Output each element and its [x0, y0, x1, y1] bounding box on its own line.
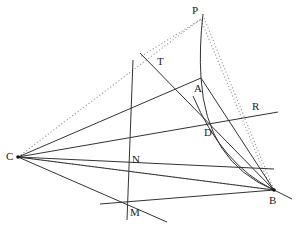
label-b: B: [269, 194, 276, 206]
line-m-b: [100, 190, 274, 204]
line-c-r: [18, 112, 278, 157]
dotted-construction-lines: [18, 18, 274, 190]
solid-lines: [18, 14, 292, 222]
point-c-dot: [16, 155, 20, 159]
label-m: M: [130, 206, 140, 218]
label-n: N: [132, 153, 140, 165]
arc-d-b: [193, 96, 274, 190]
dotted-line-p-t: [140, 20, 200, 57]
label-r: R: [252, 100, 260, 112]
dotted-line-p-b-outer: [204, 18, 274, 190]
label-a: A: [194, 82, 202, 94]
label-d: D: [204, 126, 212, 138]
geometry-diagram: P A T R D C N M B: [0, 0, 302, 226]
line-t-b: [140, 53, 274, 190]
line-b-tail: [274, 190, 292, 199]
point-b-dot: [272, 188, 276, 192]
label-t: T: [157, 55, 164, 67]
dotted-line-p-b-inner: [201, 20, 270, 186]
point-labels: P A T R D C N M B: [6, 4, 276, 218]
line-vertical-n-m: [127, 60, 133, 220]
label-c: C: [6, 150, 13, 162]
line-c-a: [18, 78, 201, 157]
label-p: P: [192, 4, 198, 16]
